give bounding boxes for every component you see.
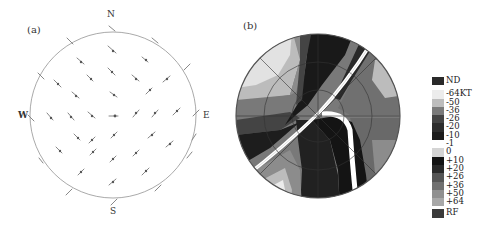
legend-swatch [432,115,444,123]
legend-swatch [432,198,444,206]
legend-swatch [432,123,444,131]
legend-item: -1 [432,140,486,148]
legend-swatch [432,173,444,181]
velocity-display-b [0,0,486,234]
legend-label: +64 [446,197,464,206]
legend-swatch [432,140,444,148]
legend-label: RF [446,208,458,217]
legend-swatch [432,148,444,156]
legend-item: +64 [432,198,486,206]
legend-swatch [432,209,444,217]
legend-swatch [432,77,444,85]
legend-item-nd: ND [432,77,486,85]
legend-swatch [432,107,444,115]
legend-swatch [432,157,444,165]
legend-swatch [432,132,444,140]
legend-swatch [432,99,444,107]
legend-label: ND [446,76,460,85]
legend-item-rf: RF [432,209,486,217]
legend-item: -10 [432,132,486,140]
legend-swatch [432,182,444,190]
legend-swatch [432,90,444,98]
legend-swatch [432,190,444,198]
velocity-legend: ND -64KT -50 -36 -26 -20 -10 -1 0 +10 +2… [432,77,486,218]
legend-swatch [432,165,444,173]
